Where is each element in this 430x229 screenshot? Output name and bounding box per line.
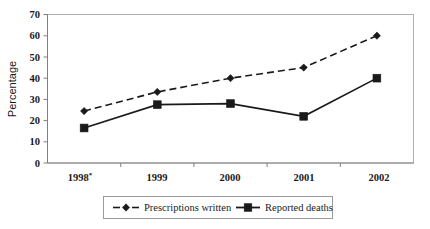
y-tick-label-60: 60 — [30, 30, 41, 41]
square-icon — [373, 74, 381, 82]
diamond-icon — [300, 64, 307, 71]
chart-figure: 0 10 20 30 40 50 60 70 Percentage 1998* … — [0, 0, 430, 229]
series-reported-deaths — [80, 74, 381, 132]
legend-entry-reported-deaths[interactable]: Reported deaths — [236, 202, 333, 213]
square-icon — [244, 204, 252, 212]
diamond-icon — [373, 32, 380, 39]
square-icon — [153, 101, 161, 109]
y-axis-ticks — [44, 15, 48, 164]
y-tick-label-30: 30 — [30, 94, 41, 105]
legend-label-reported-deaths: Reported deaths — [265, 202, 333, 213]
x-axis-ticks — [121, 163, 341, 167]
series-layer — [80, 32, 381, 132]
x-tick-label-1998: 1998* — [68, 171, 93, 183]
legend-label-prescriptions-written: Prescriptions written — [144, 202, 232, 213]
line-chart: 0 10 20 30 40 50 60 70 Percentage 1998* … — [0, 0, 430, 229]
x-tick-label-1999: 1999 — [147, 172, 168, 183]
x-tick-label-2001: 2001 — [294, 172, 315, 183]
chart-legend: Prescriptions written Reported deaths — [104, 197, 333, 219]
y-tick-label-20: 20 — [30, 115, 41, 126]
y-tick-label-50: 50 — [30, 52, 41, 63]
y-tick-label-40: 40 — [30, 73, 41, 84]
y-axis-tick-labels: 0 10 20 30 40 50 60 70 — [30, 9, 41, 168]
diamond-icon — [81, 107, 88, 114]
x-axis-tick-labels: 1998* 1999 2000 2001 2002 — [68, 171, 390, 183]
x-tick-label-2002: 2002 — [369, 172, 390, 183]
x-tick-label-2000: 2000 — [220, 172, 241, 183]
square-icon — [80, 124, 88, 132]
diamond-icon — [154, 88, 161, 95]
y-axis-title: Percentage — [6, 61, 18, 117]
y-tick-label-70: 70 — [30, 9, 41, 20]
y-tick-label-10: 10 — [30, 136, 41, 147]
plot-area-frame — [48, 15, 414, 164]
diamond-icon — [227, 75, 234, 82]
y-tick-label-0: 0 — [35, 158, 40, 169]
square-icon — [300, 112, 308, 120]
square-icon — [227, 100, 235, 108]
